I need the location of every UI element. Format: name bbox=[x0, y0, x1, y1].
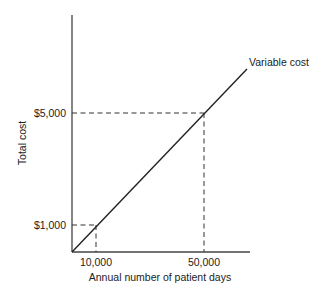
xtick-50000: 50,000 bbox=[188, 256, 220, 268]
chart: Variable cost $5,000 $1,000 10,000 50,00… bbox=[0, 0, 326, 290]
ytick-5000: $5,000 bbox=[34, 107, 66, 119]
series-label: Variable cost bbox=[249, 56, 309, 68]
y-axis-title: Total cost bbox=[16, 121, 28, 165]
xtick-10000: 10,000 bbox=[80, 256, 112, 268]
x-axis-title: Annual number of patient days bbox=[89, 271, 231, 283]
ytick-1000: $1,000 bbox=[34, 219, 66, 231]
variable-cost-line bbox=[72, 69, 247, 252]
